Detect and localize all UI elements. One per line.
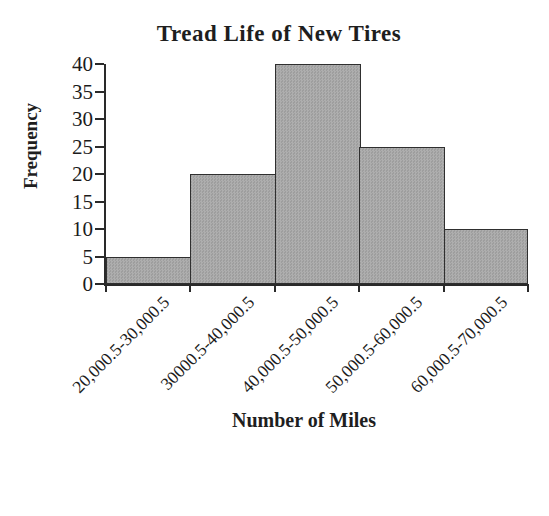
y-tick-mark (95, 146, 104, 148)
chart-title: Tread Life of New Tires (104, 21, 454, 51)
x-tick-mark (527, 284, 529, 292)
bar-3 (275, 64, 361, 284)
bar-4 (359, 147, 445, 285)
y-tick-label: 15 (33, 190, 93, 214)
y-tick-label: 10 (33, 217, 93, 241)
y-tick-mark (95, 91, 104, 93)
x-tick-mark (105, 284, 107, 292)
x-axis-title: Number of Miles (199, 409, 409, 435)
y-tick-mark (95, 228, 104, 230)
y-tick-label: 5 (33, 245, 93, 269)
y-tick-mark (95, 283, 104, 285)
histogram-figure: Tread Life of New Tires Frequency 051015… (0, 0, 549, 516)
bar-5 (444, 229, 528, 284)
x-tick-mark (189, 284, 191, 292)
y-tick-label: 25 (33, 135, 93, 159)
x-tick-mark (443, 284, 445, 292)
y-tick-label: 0 (33, 272, 93, 296)
y-tick-label: 40 (33, 52, 93, 76)
y-tick-label: 30 (33, 107, 93, 131)
y-tick-mark (95, 173, 104, 175)
y-tick-label: 20 (33, 162, 93, 186)
bar-2 (190, 174, 276, 284)
x-tick-mark (358, 284, 360, 292)
y-tick-mark (95, 118, 104, 120)
y-tick-mark (95, 63, 104, 65)
x-tick-mark (274, 284, 276, 292)
bar-1 (106, 257, 192, 285)
y-tick-mark (95, 201, 104, 203)
y-tick-label: 35 (33, 80, 93, 104)
plot-area: 0510152025303540 (104, 64, 528, 286)
y-tick-mark (95, 256, 104, 258)
